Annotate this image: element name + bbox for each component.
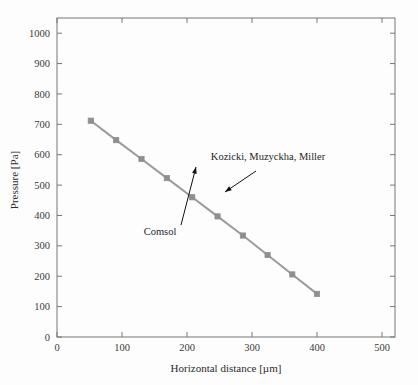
annotation-arrow-head (225, 186, 232, 192)
plot-border (57, 18, 395, 337)
data-point-marker (240, 233, 245, 238)
y-tick-label: 800 (34, 89, 50, 100)
plot-frame (57, 18, 395, 337)
y-tick-label: 600 (34, 149, 50, 160)
annotation-label: Comsol (144, 226, 177, 237)
y-axis-ticks (57, 33, 395, 337)
annotation-label: Kozicki, Muzyckha, Miller (211, 151, 326, 162)
x-axis-ticks (57, 18, 382, 337)
y-tick-label: 200 (34, 271, 50, 282)
y-tick-label: 300 (34, 240, 50, 251)
x-axis-title: Horizontal distance [µm] (171, 362, 282, 374)
y-tick-label: 900 (34, 58, 50, 69)
series-line (91, 121, 317, 294)
y-tick-label: 500 (34, 180, 50, 191)
y-tick-label: 100 (34, 301, 50, 312)
x-axis-tick-labels: 0100200300400500 (54, 342, 390, 353)
data-point-marker (164, 176, 169, 181)
annotation-arrow-head (192, 167, 197, 174)
y-tick-label: 1000 (29, 28, 50, 39)
x-tick-label: 0 (54, 342, 59, 353)
annotations-group: ComsolKozicki, Muzyckha, Miller (144, 151, 326, 237)
data-point-marker (314, 291, 319, 296)
y-tick-label: 0 (45, 332, 50, 343)
data-point-marker (88, 118, 93, 123)
x-tick-label: 100 (114, 342, 130, 353)
x-tick-label: 300 (244, 342, 260, 353)
y-tick-label: 700 (34, 119, 50, 130)
data-point-marker (265, 252, 270, 257)
x-tick-label: 400 (309, 342, 325, 353)
data-point-marker (114, 138, 119, 143)
y-axis-title: Pressure [Pa] (8, 151, 20, 209)
chart-canvas: 0100200300400500 01002003004005006007008… (0, 0, 418, 385)
x-tick-label: 200 (179, 342, 195, 353)
chart-figure: 0100200300400500 01002003004005006007008… (0, 0, 418, 385)
data-point-marker (139, 156, 144, 161)
data-point-marker (215, 214, 220, 219)
data-point-marker (190, 195, 195, 200)
data-point-marker (290, 272, 295, 277)
y-axis-tick-labels: 01002003004005006007008009001000 (29, 28, 50, 343)
x-tick-label: 500 (374, 342, 390, 353)
data-series-group (88, 118, 319, 296)
y-tick-label: 400 (34, 210, 50, 221)
